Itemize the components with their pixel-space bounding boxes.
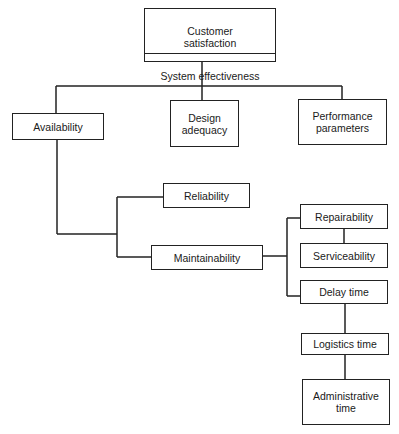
administrative-time-label: Administrative time — [313, 390, 379, 414]
availability-label: Availability — [33, 121, 82, 133]
maintainability-label: Maintainability — [174, 252, 241, 264]
serviceability-box: Serviceability — [300, 243, 388, 268]
customer-satisfaction-label: Customer satisfaction — [145, 21, 275, 54]
repairability-box: Repairability — [300, 204, 388, 229]
logistics-time-box: Logistics time — [301, 333, 389, 355]
logistics-time-label: Logistics time — [313, 338, 377, 350]
serviceability-label: Serviceability — [313, 250, 375, 262]
repairability-label: Repairability — [315, 211, 373, 223]
delay-time-label: Delay time — [319, 286, 369, 298]
performance-parameters-label: Performance parameters — [312, 110, 372, 134]
availability-box: Availability — [12, 113, 104, 140]
administrative-time-box: Administrative time — [302, 379, 390, 425]
maintainability-box: Maintainability — [151, 245, 263, 270]
root-box: Customer satisfaction System effectivene… — [144, 8, 276, 62]
reliability-label: Reliability — [184, 190, 229, 202]
performance-parameters-box: Performance parameters — [298, 99, 387, 145]
reliability-box: Reliability — [163, 183, 250, 208]
system-effectiveness-label: System effectiveness — [145, 66, 275, 85]
design-adequacy-box: Design adequacy — [170, 100, 239, 147]
delay-time-box: Delay time — [300, 280, 388, 304]
design-adequacy-label: Design adequacy — [182, 112, 228, 136]
